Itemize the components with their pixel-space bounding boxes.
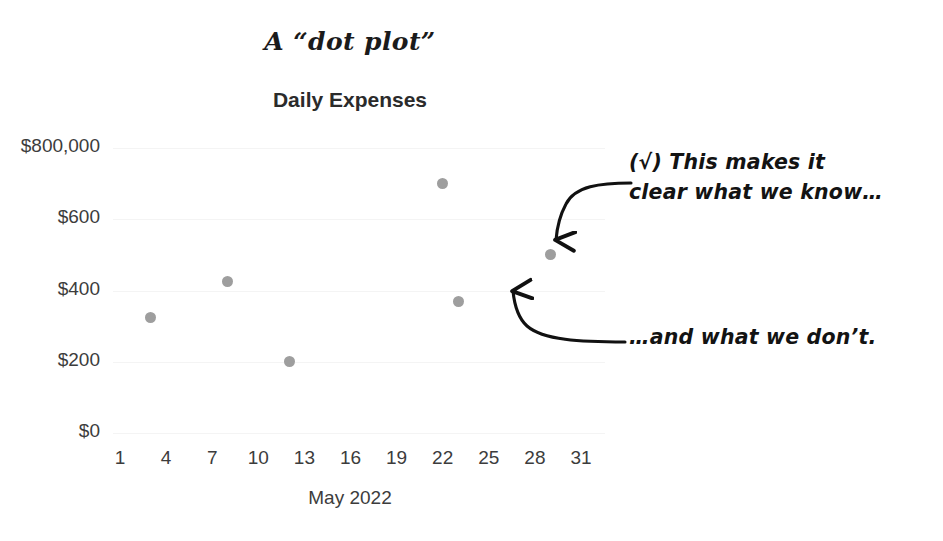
gridline <box>113 362 605 363</box>
data-point <box>222 276 233 287</box>
y-axis-tick-label: $200 <box>0 349 100 371</box>
annotation-what-we-know: (√) This makes it clear what we know… <box>629 147 883 207</box>
figure-canvas: A “dot plot” Daily Expenses $0$200$400$6… <box>0 0 943 541</box>
gridline <box>113 148 605 149</box>
gridline <box>113 219 605 220</box>
gridline <box>113 433 605 434</box>
y-axis-tick-label: $800,000 <box>0 135 100 157</box>
y-axis-tick-label: $400 <box>0 278 100 300</box>
x-axis-tick-label: 31 <box>551 447 611 469</box>
data-point <box>145 312 156 323</box>
gridline <box>113 291 605 292</box>
data-point <box>545 249 556 260</box>
data-point <box>437 178 448 189</box>
data-point <box>453 296 464 307</box>
x-axis-title: May 2022 <box>0 487 700 509</box>
scatter-plot: $0$200$400$600$800,000 14710131619222528… <box>0 0 943 541</box>
data-point <box>284 356 295 367</box>
annotation-what-we-dont-know: …and what we don’t. <box>629 322 877 352</box>
y-axis-tick-label: $600 <box>0 206 100 228</box>
y-axis-tick-label: $0 <box>0 420 100 442</box>
